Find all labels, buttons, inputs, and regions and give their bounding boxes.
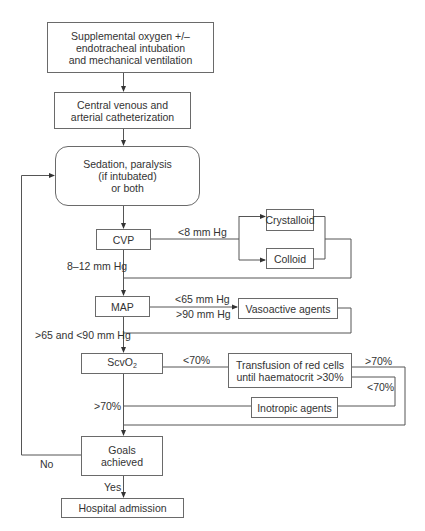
edge-label-map-high: >90 mm Hg (176, 308, 231, 320)
edge-label-cvp-low: <8 mm Hg (178, 226, 227, 238)
scvo2-label: ScvO2 (107, 356, 137, 372)
edge-label-map-ok: >65 and <90 mm Hg (35, 329, 131, 341)
goals-line-1: Goals (108, 444, 135, 456)
cvp-box: CVP (96, 229, 151, 250)
edge-label-transfusion-low: <70% (367, 381, 394, 393)
oxygen-line-3: and mechanical ventilation (69, 54, 193, 66)
map-box: MAP (95, 296, 150, 317)
goals-achieved-box: Goals achieved (81, 436, 163, 476)
crystalloid-box: Crystalloid (266, 209, 314, 231)
edge-label-scvo2-low: <70% (183, 354, 210, 366)
map-label: MAP (111, 301, 134, 313)
sedation-line-3: or both (111, 182, 144, 194)
sedation-line-1: Sedation, paralysis (83, 158, 172, 170)
colloid-box: Colloid (266, 248, 314, 269)
catheterization-box: Central venous and arterial catheterizat… (54, 92, 191, 129)
inotropic-label: Inotropic agents (257, 402, 332, 414)
sedation-line-2: (if intubated) (98, 170, 156, 182)
edge-label-scvo2-ok: >70% (94, 400, 121, 412)
transfusion-line-2: until haematocrit >30% (236, 371, 343, 383)
vasoactive-agents-box: Vasoactive agents (238, 298, 338, 319)
catheter-line-2: arterial catheterization (71, 111, 174, 123)
colloid-label: Colloid (274, 253, 306, 265)
catheter-line-1: Central venous and (77, 99, 168, 111)
hospital-admission-box: Hospital admission (61, 498, 184, 518)
sedation-box: Sedation, paralysis (if intubated) or bo… (55, 146, 200, 206)
cvp-label: CVP (113, 234, 135, 246)
edge-label-cvp-ok: 8–12 mm Hg (67, 260, 127, 272)
edge-label-goals-no: No (40, 458, 53, 470)
goals-line-2: achieved (101, 456, 143, 468)
scvo2-text: ScvO (107, 356, 133, 368)
hospital-label: Hospital admission (78, 502, 166, 514)
transfusion-box: Transfusion of red cells until haematocr… (228, 353, 352, 388)
edge-label-transfusion-ok: >70% (365, 355, 392, 367)
crystalloid-label: Crystalloid (266, 214, 315, 226)
scvo2-box: ScvO2 (81, 353, 163, 374)
oxygen-ventilation-box: Supplemental oxygen +/– endotracheal int… (47, 22, 214, 73)
inotropic-agents-box: Inotropic agents (251, 397, 338, 418)
oxygen-line-1: Supplemental oxygen +/– (71, 30, 190, 42)
oxygen-line-2: endotracheal intubation (76, 42, 185, 54)
scvo2-subscript: 2 (133, 362, 137, 369)
vasoactive-label: Vasoactive agents (245, 303, 330, 315)
edge-label-map-low: <65 mm Hg (175, 293, 230, 305)
connector-lines (0, 0, 425, 531)
transfusion-line-1: Transfusion of red cells (236, 359, 344, 371)
edge-label-goals-yes: Yes (104, 481, 121, 493)
